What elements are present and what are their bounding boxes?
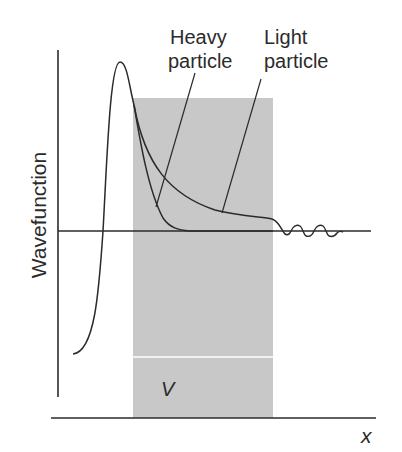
light-particle-label-line1: Light <box>264 26 308 48</box>
potential-barrier <box>133 98 273 418</box>
incident-wavefunction-curve <box>73 62 134 354</box>
light-particle-label-line2: particle <box>264 50 328 72</box>
barrier-label: V <box>161 378 176 400</box>
heavy-particle-label-line1: Heavy <box>170 26 227 48</box>
tunneling-diagram: Heavy particle Light particle Wavefuncti… <box>0 0 402 452</box>
x-axis-label: x <box>360 424 373 447</box>
heavy-particle-label-line2: particle <box>168 50 232 72</box>
y-axis-label: Wavefunction <box>27 152 50 278</box>
